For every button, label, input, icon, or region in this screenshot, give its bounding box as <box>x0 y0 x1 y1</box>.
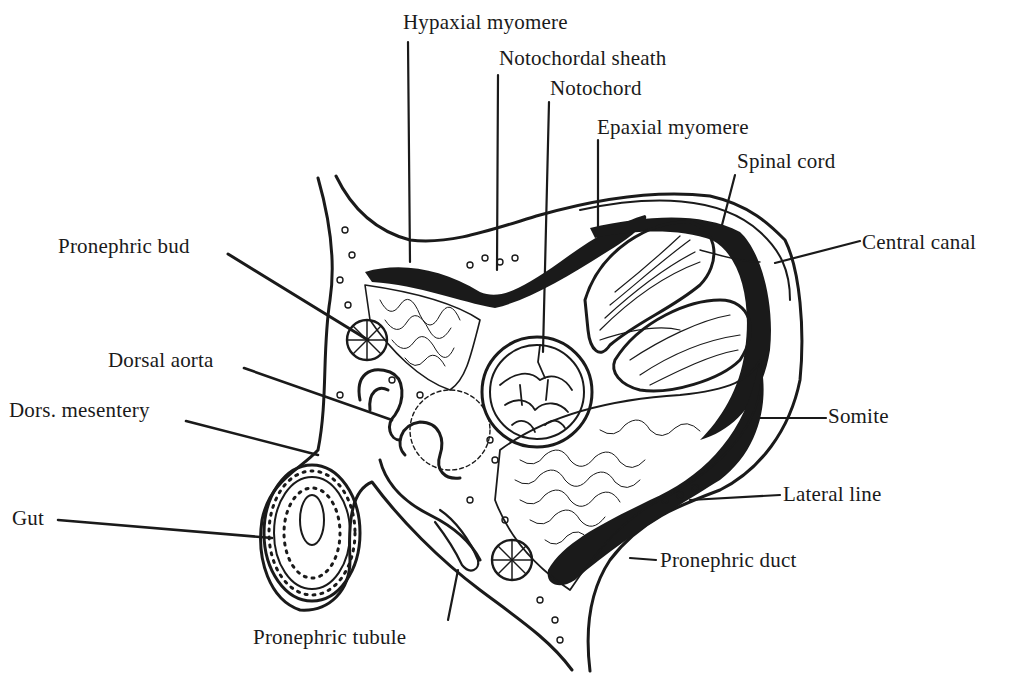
notochord-structure <box>482 337 592 447</box>
pronephric-bud-structure <box>347 320 387 360</box>
leader-gut <box>58 520 272 538</box>
cross-section-drawing <box>0 0 1027 691</box>
label-notochordal-sheath: Notochordal sheath <box>499 48 666 69</box>
label-pronephric-duct: Pronephric duct <box>660 550 797 571</box>
label-dorsal-aorta: Dorsal aorta <box>108 350 214 371</box>
label-pronephric-bud: Pronephric bud <box>58 236 190 257</box>
diagram-canvas: Hypaxial myomere Notochordal sheath Noto… <box>0 0 1027 691</box>
label-hypaxial-myomere: Hypaxial myomere <box>403 12 568 33</box>
label-central-canal: Central canal <box>862 232 976 253</box>
label-gut: Gut <box>12 508 44 529</box>
leader-dors-mesentery <box>186 421 318 455</box>
leader-dorsal-aorta <box>244 368 392 420</box>
pronephric-tubule-structure <box>435 510 478 570</box>
label-spinal-cord: Spinal cord <box>737 151 835 172</box>
label-pronephric-tubule: Pronephric tubule <box>253 627 406 648</box>
hypaxial-myomere-tissue <box>365 285 480 390</box>
label-somite: Somite <box>828 406 889 427</box>
label-notochord: Notochord <box>550 78 642 99</box>
dorsal-aorta-loops <box>359 370 490 560</box>
leader-notochordal-sheath <box>497 75 498 270</box>
gut-structure <box>264 465 360 601</box>
leader-notochord <box>543 102 549 352</box>
label-lateral-line: Lateral line <box>783 484 882 505</box>
label-epaxial-myomere: Epaxial myomere <box>597 117 749 138</box>
leader-pronephric-duct <box>630 558 656 560</box>
leader-pronephric-bud <box>228 254 368 340</box>
leader-pronephric-tubule <box>448 570 458 620</box>
pronephric-duct-structure <box>492 540 532 580</box>
leader-hypaxial-myomere <box>408 42 410 262</box>
label-dors-mesentery: Dors. mesentery <box>9 400 150 421</box>
